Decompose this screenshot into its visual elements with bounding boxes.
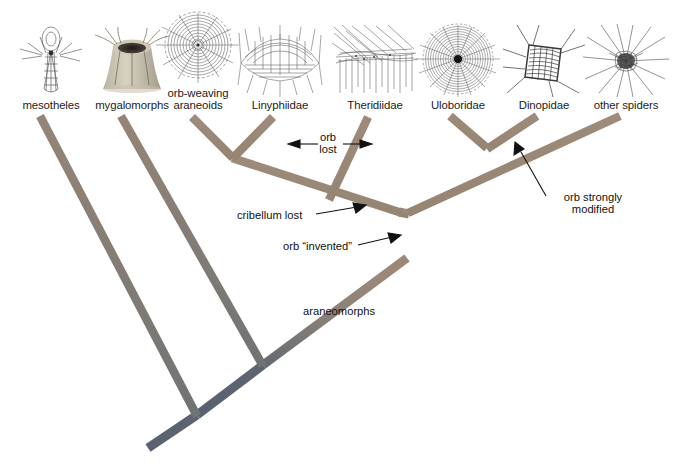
phylogeny-diagram: mesotheles xyxy=(0,0,676,469)
taxon-uloboridae[interactable]: Uloboridae xyxy=(410,0,506,112)
spider-web-cast-icon xyxy=(499,23,589,99)
taxon-label: Theridiidae xyxy=(347,100,402,112)
taxon-theridiidae[interactable]: Theridiidae xyxy=(327,0,423,112)
orb-lost-arrowhead-left xyxy=(288,140,300,148)
taxon-label: orb-weaving araneoids xyxy=(168,88,229,112)
spider-web-tube-icon xyxy=(6,23,96,99)
orb-invented-leader xyxy=(358,237,392,245)
taxon-other-spiders[interactable]: other spiders xyxy=(578,0,674,112)
annotation-orb-strongly-modified: orb strongly modified xyxy=(548,191,638,215)
spider-web-radial-icon xyxy=(581,23,671,99)
taxon-label: other spiders xyxy=(594,100,659,112)
taxon-label: Dinopidae xyxy=(519,100,569,112)
orb-strongly-modified-arrowhead xyxy=(514,142,524,155)
taxon-linyphiidae[interactable]: Linyphiidae xyxy=(232,0,328,112)
annotation-orb-invented: orb “invented” xyxy=(283,240,352,252)
spider-web-tangle-icon xyxy=(330,23,420,99)
taxon-label: Uloboridae xyxy=(431,100,485,112)
taxon-label: Linyphiidae xyxy=(252,100,309,112)
spider-web-orb-icon xyxy=(153,11,243,87)
annotation-araneomorphs: araneomorphs xyxy=(303,305,375,317)
spider-web-sheet-icon xyxy=(235,23,325,99)
cribellum-lost-leader xyxy=(316,207,357,214)
taxa-row: mesotheles xyxy=(0,0,676,112)
spider-web-orb-dense-icon xyxy=(413,23,503,99)
annotation-cribellum-lost: cribellum lost xyxy=(237,209,302,221)
annotation-orb-lost: orb lost xyxy=(303,131,353,155)
taxon-label: mesotheles xyxy=(22,100,79,112)
cribellum-lost-arrowhead xyxy=(353,203,366,213)
orb-lost-arrowhead-right xyxy=(360,140,372,148)
orb-invented-arrowhead xyxy=(388,233,401,243)
